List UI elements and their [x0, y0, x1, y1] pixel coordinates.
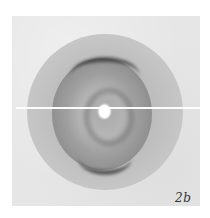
- central-beam-spot: [99, 105, 110, 118]
- inner-ring: [84, 88, 134, 146]
- panel-label: 2b: [175, 191, 191, 205]
